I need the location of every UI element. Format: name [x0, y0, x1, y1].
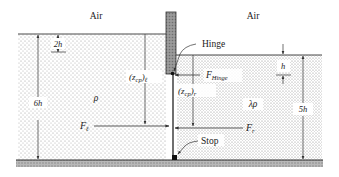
- dim-6h-label: 6h: [34, 98, 43, 108]
- stop-block: [172, 155, 177, 160]
- hinge-pin: [171, 72, 175, 76]
- left-density-label: ρ: [93, 93, 99, 103]
- dim-5h-label: 5h: [299, 104, 308, 114]
- gate: [166, 12, 176, 74]
- right-density-label: λρ: [248, 99, 258, 109]
- gate-diagram: Air Air 2h 6h ρ (zcp)ℓ Fℓ Hinge FHinge (…: [0, 0, 339, 177]
- hinge-label: Hinge: [202, 39, 225, 49]
- air-right-label: Air: [247, 11, 261, 21]
- dim-h-label: h: [281, 61, 285, 71]
- ground: [16, 160, 323, 167]
- stop-label: Stop: [201, 136, 219, 146]
- air-left-label: Air: [90, 11, 104, 21]
- dim-2h-label: 2h: [54, 39, 63, 49]
